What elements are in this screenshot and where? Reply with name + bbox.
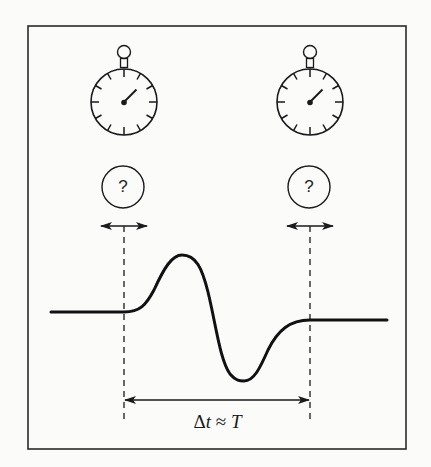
question-mark-left: ?	[102, 166, 144, 208]
stopwatch-right-icon	[277, 46, 343, 136]
clock-hand	[310, 90, 323, 103]
interval-label: Δt ≈ T	[0, 411, 431, 433]
wave-pulse	[51, 255, 387, 381]
figure-frame	[28, 26, 406, 449]
period-symbol: T	[231, 411, 242, 432]
question-mark-right: ?	[288, 166, 330, 208]
pulse-timing-diagram	[0, 0, 431, 467]
clock-hand	[124, 90, 137, 103]
stopwatch-left-icon	[91, 46, 157, 136]
delta-symbol: Δ	[193, 411, 205, 432]
approx-symbol: ≈	[211, 411, 231, 432]
